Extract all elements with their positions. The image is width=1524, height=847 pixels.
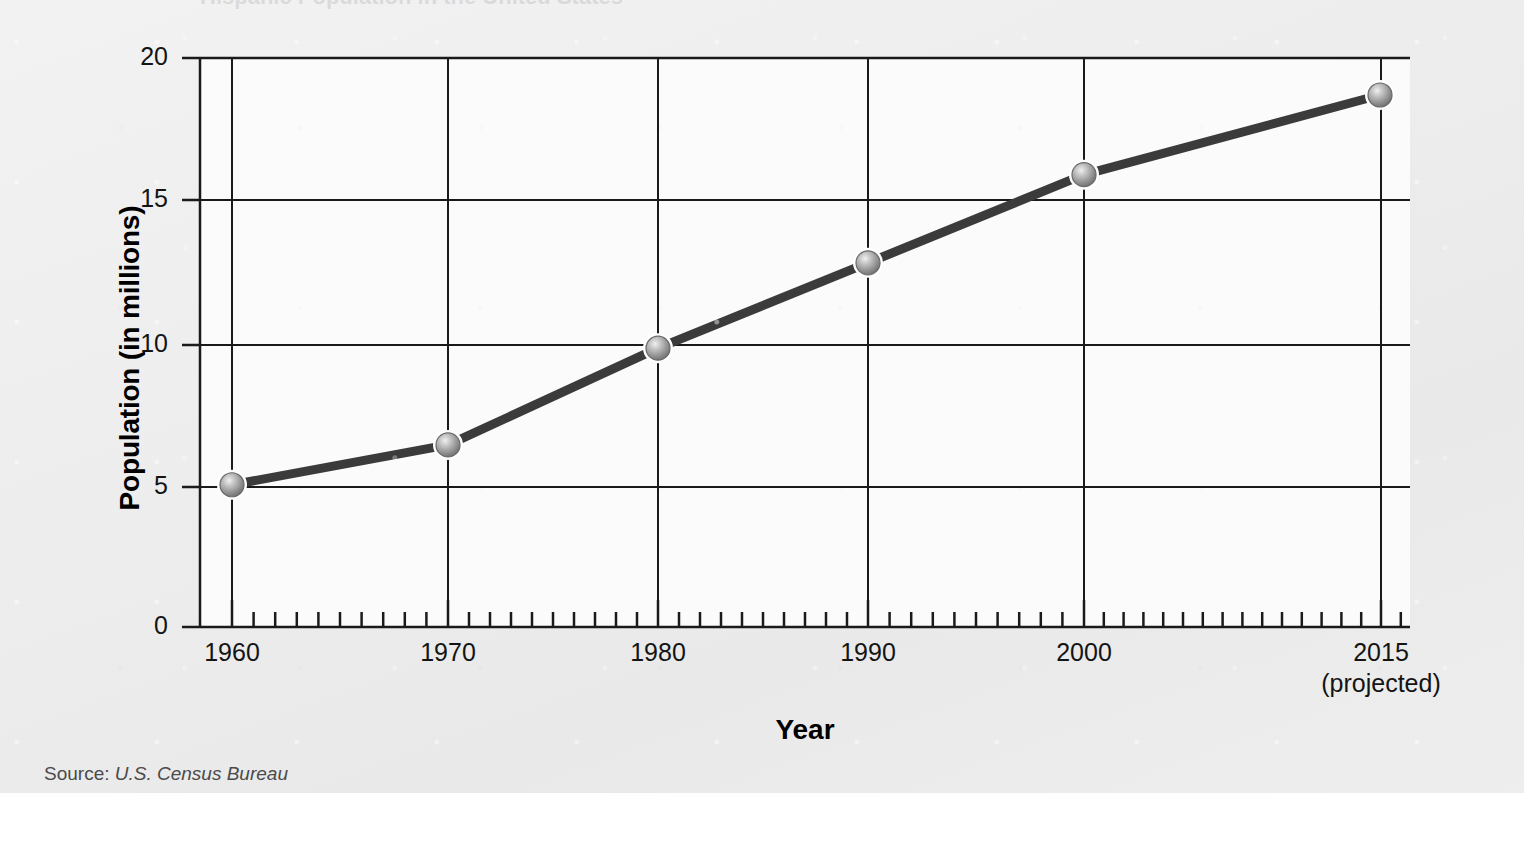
plot-background <box>200 58 1410 627</box>
data-point-marker <box>220 473 244 497</box>
source-note: Source: U.S. Census Bureau <box>44 763 288 785</box>
xtick-label-1990: 1990 <box>778 638 958 667</box>
xtick-label-1970: 1970 <box>358 638 538 667</box>
data-point-marker <box>646 336 670 360</box>
y-axis-label: Population (in millions) <box>114 138 146 578</box>
data-point-marker <box>436 433 460 457</box>
source-prefix: Source: <box>44 763 109 784</box>
source-value: U.S. Census Bureau <box>115 763 288 784</box>
xtick-label-1980: 1980 <box>568 638 748 667</box>
xtick-label-2000: 2000 <box>994 638 1174 667</box>
xtick-label-2015-note: (projected) <box>1291 667 1471 699</box>
data-point-marker <box>1368 83 1392 107</box>
ytick-label-0: 0 <box>98 611 168 640</box>
x-axis-label: Year <box>605 714 1005 746</box>
data-point-marker <box>856 251 880 275</box>
chart-figure: Hispanic Population in the United States <box>0 0 1524 793</box>
xtick-label-2015-year: 2015 <box>1353 638 1409 666</box>
data-point-marker <box>1072 163 1096 187</box>
xtick-label-1960: 1960 <box>142 638 322 667</box>
ytick-label-20: 20 <box>98 42 168 71</box>
y-axis-ticks <box>182 58 200 627</box>
xtick-label-2015: 2015 (projected) <box>1291 638 1471 699</box>
